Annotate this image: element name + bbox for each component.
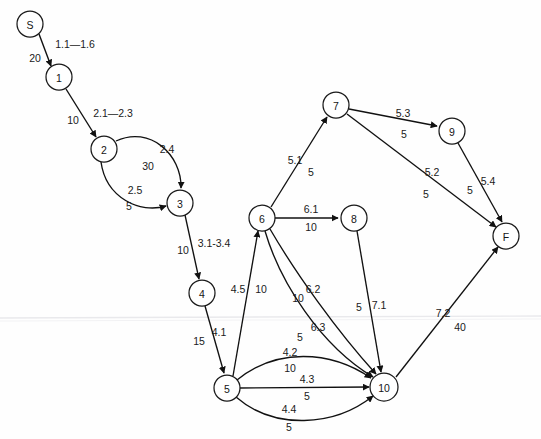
edge-weight-label: 40	[454, 321, 466, 333]
edge-weight-label: 5	[297, 331, 303, 343]
edge-tag-label: 2.1—2.3	[93, 107, 133, 119]
edge-tag-label: 1.1—1.6	[55, 38, 95, 50]
edge-weight-label: 5	[126, 200, 132, 212]
edge-weight-label: 5	[308, 166, 314, 178]
node-9[interactable]: 9	[439, 118, 465, 144]
edge-weight-label: 5	[286, 421, 292, 433]
edge-weight-label: 15	[193, 335, 205, 347]
edge-tag-label: 5.4	[481, 175, 496, 187]
edge-tag-label: 6.2	[306, 283, 321, 295]
edge-tag-label: 4.5	[231, 283, 246, 295]
edge-weight-label: 5	[304, 390, 310, 402]
edge-weight-label: 10	[292, 292, 304, 304]
node-label: 1	[56, 72, 62, 84]
edge-tag-label: 7.1	[372, 299, 387, 311]
node-label: 9	[449, 126, 455, 138]
diagram-canvas: 1.1—1.6202.1—2.3102.4302.553.1-3.4104.11…	[0, 0, 541, 439]
node-4[interactable]: 4	[189, 280, 215, 306]
edge-tag-label: 2.4	[160, 143, 175, 155]
edge-tag-label: 7.2	[436, 307, 451, 319]
node-S[interactable]: S	[17, 11, 43, 37]
node-5[interactable]: 5	[214, 375, 240, 401]
edge-4-to-5	[205, 306, 224, 373]
edge-1-to-2	[66, 89, 96, 137]
node-2[interactable]: 2	[91, 136, 117, 162]
node-1[interactable]: 1	[46, 64, 72, 90]
edge-tag-label: 4.4	[282, 403, 297, 415]
edge-labels-layer: 1.1—1.6202.1—2.3102.4302.553.1-3.4104.11…	[29, 38, 495, 433]
edge-tag-label: 5.3	[396, 107, 411, 119]
nodes-layer: S12345678910F	[17, 11, 519, 401]
node-F[interactable]: F	[493, 223, 519, 249]
edge-tag-label: 5.2	[425, 166, 440, 178]
node-label: 3	[177, 198, 183, 210]
edge-weight-label: 5	[401, 128, 407, 140]
edge-weight-label: 30	[142, 160, 154, 172]
node-label: 2	[101, 144, 107, 156]
edge-tag-label: 5.1	[288, 154, 303, 166]
edge-tag-label: 2.5	[128, 184, 143, 196]
edge-5-to-6	[233, 231, 258, 376]
edge-tag-label: 6.3	[311, 321, 326, 333]
network-graph: 1.1—1.6202.1—2.3102.4302.553.1-3.4104.11…	[0, 0, 541, 439]
node-label: 5	[224, 383, 230, 395]
node-label: F	[503, 231, 509, 243]
edge-weight-label: 10	[177, 244, 189, 256]
node-label: 7	[333, 100, 339, 112]
node-label: 8	[351, 213, 357, 225]
node-6[interactable]: 6	[249, 205, 275, 231]
edge-weight-label: 5	[423, 188, 429, 200]
node-3[interactable]: 3	[167, 190, 193, 216]
node-8[interactable]: 8	[341, 205, 367, 231]
edge-tag-label: 4.2	[283, 346, 298, 358]
node-label: 4	[199, 288, 205, 300]
edge-tag-label: 6.1	[304, 203, 319, 215]
edge-weight-label: 10	[305, 221, 317, 233]
edge-tag-label: 3.1-3.4	[198, 237, 231, 249]
edge-weight-label: 5	[467, 184, 473, 196]
edge-7-to-9	[349, 109, 437, 126]
edge-weight-label: 10	[284, 362, 296, 374]
edge-weight-label: 5	[356, 301, 362, 313]
edge-tag-label: 4.3	[300, 373, 315, 385]
edge-weight-label: 10	[255, 283, 267, 295]
edge-tag-label: 4.1	[212, 326, 227, 338]
node-label: S	[26, 19, 33, 31]
node-label: 10	[378, 382, 390, 394]
edge-weight-label: 20	[29, 52, 41, 64]
node-label: 6	[259, 213, 265, 225]
node-10[interactable]: 10	[370, 373, 398, 401]
edge-5-to-10	[240, 387, 369, 388]
edge-weight-label: 10	[67, 114, 79, 126]
node-7[interactable]: 7	[323, 92, 349, 118]
